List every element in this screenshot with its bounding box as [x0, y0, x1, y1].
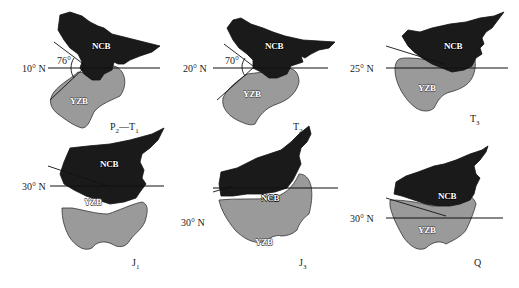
yzb-label: YZB	[255, 238, 273, 247]
period-main: Q	[474, 257, 481, 268]
angle-label: 70°	[225, 56, 239, 66]
period-label: Q	[474, 258, 481, 271]
period-sep: —	[119, 121, 129, 132]
panel-q: 30° N NCB YZB Q	[346, 144, 519, 288]
period-sub-2: 1	[135, 127, 139, 135]
period-label: J1	[132, 258, 139, 271]
period-sub: 3	[476, 119, 480, 127]
ncb-label: NCB	[100, 160, 118, 169]
period-label: T3	[470, 114, 480, 127]
panel-j3: 30° N NCB YZB J3	[173, 144, 346, 288]
yzb-label: YZB	[418, 84, 436, 93]
latitude-label: 10° N	[22, 64, 46, 74]
yzb-label: YZB	[243, 90, 261, 99]
ncb-label: NCB	[265, 42, 283, 51]
figure-caption-faint	[40, 276, 480, 282]
panel-j1: 30° N NCB YZB J1	[0, 144, 173, 288]
panel-j3-drawing	[173, 144, 346, 288]
ncb-label: NCB	[438, 192, 456, 201]
panel-t2: 20° N 70° NCB YZB T2	[173, 0, 346, 144]
latitude-label: 30° N	[181, 218, 205, 228]
period-sub: 3	[303, 263, 307, 271]
ncb-label: NCB	[444, 42, 462, 51]
panel-j1-drawing	[0, 144, 173, 288]
panel-t3: 25° N NCB YZB T3	[346, 0, 519, 144]
angle-label: 76°	[57, 56, 71, 66]
period-label: P2—T1	[110, 122, 139, 135]
period-label: J3	[299, 258, 306, 271]
yzb-block-shape	[62, 202, 147, 249]
latitude-label: 25° N	[350, 64, 374, 74]
latitude-label: 30° N	[350, 214, 374, 224]
yzb-label: YZB	[418, 226, 436, 235]
angle-arc	[242, 58, 245, 76]
ncb-label: NCB	[92, 42, 110, 51]
panel-p2-t1: 10° N 76° NCB YZB P2—T1	[0, 0, 173, 144]
ncb-label: NCB	[261, 194, 279, 203]
yzb-label: YZB	[70, 97, 88, 106]
latitude-label: 20° N	[183, 64, 207, 74]
period-sub: 1	[136, 263, 140, 271]
yzb-label: YZB	[84, 198, 102, 207]
latitude-label: 30° N	[22, 182, 46, 192]
